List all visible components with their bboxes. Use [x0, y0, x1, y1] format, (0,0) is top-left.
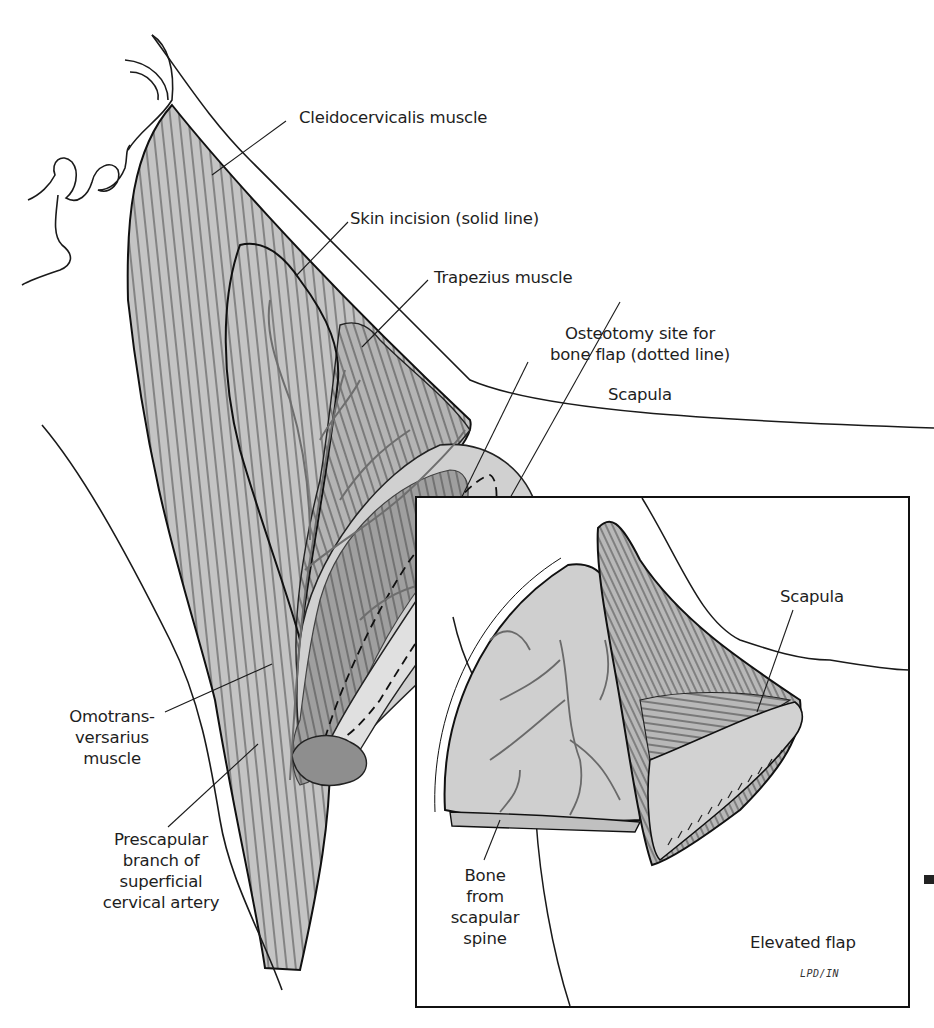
label-osteotomy-site: Osteotomy site for bone flap (dotted lin… [540, 323, 740, 365]
label-prescap-line3: superficial [88, 871, 234, 892]
label-prescap-line4: cervical artery [88, 892, 234, 913]
label-osteotomy-line2: bone flap (dotted line) [540, 344, 740, 365]
label-bone-line4: spine [440, 928, 530, 949]
label-prescap-line1: Prescapular [88, 829, 234, 850]
label-prescap-line2: branch of [88, 850, 234, 871]
label-skin-incision: Skin incision (solid line) [350, 208, 539, 229]
label-bone-line1: Bone [440, 865, 530, 886]
label-omotransversarius-muscle: Omotrans- versarius muscle [52, 706, 172, 769]
label-elevated-flap: Elevated flap [750, 932, 856, 953]
label-bone-from-scapular-spine: Bone from scapular spine [440, 865, 530, 949]
label-scapula-main: Scapula [608, 384, 672, 405]
label-prescapular-branch: Prescapular branch of superficial cervic… [88, 829, 234, 913]
artist-signature: LPD/IN [800, 968, 839, 979]
label-osteotomy-line1: Osteotomy site for [540, 323, 740, 344]
label-scapula-inset: Scapula [780, 586, 844, 607]
label-trapezius-muscle: Trapezius muscle [434, 267, 572, 288]
label-cleidocervicalis-muscle: Cleidocervicalis muscle [299, 107, 487, 128]
label-omotrans-line2: versarius [52, 727, 172, 748]
label-bone-line2: from [440, 886, 530, 907]
label-bone-line3: scapular [440, 907, 530, 928]
label-omotrans-line3: muscle [52, 748, 172, 769]
label-omotrans-line1: Omotrans- [52, 706, 172, 727]
cropped-caption-fragment [924, 875, 934, 884]
